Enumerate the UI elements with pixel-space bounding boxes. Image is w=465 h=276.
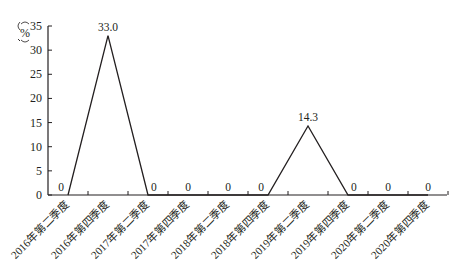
series-line <box>68 36 428 195</box>
y-tick-label: 15 <box>30 116 42 130</box>
y-axis-label: % <box>18 22 30 42</box>
data-series <box>68 36 428 195</box>
data-label: 14.3 <box>298 111 318 123</box>
data-labels: 033.0000014.3000 <box>58 21 431 193</box>
y-tick-label: 35 <box>30 19 42 33</box>
y-tick-label: 0 <box>36 188 42 202</box>
data-label: 0 <box>425 181 431 193</box>
data-label: 33.0 <box>98 21 118 33</box>
y-tick-label: 10 <box>30 140 42 154</box>
data-label: 0 <box>185 181 191 193</box>
y-unit-label: % <box>20 26 30 40</box>
data-label: 0 <box>225 181 231 193</box>
data-label: 0 <box>258 181 264 193</box>
data-label: 0 <box>151 181 157 193</box>
chart-canvas: 05101520253035 % 033.0000014.3000 2016年第… <box>0 0 465 276</box>
y-axis: 05101520253035 <box>30 19 52 202</box>
data-label: 0 <box>58 181 64 193</box>
line-chart: 05101520253035 % 033.0000014.3000 2016年第… <box>0 0 465 276</box>
paren-close <box>21 40 29 42</box>
paren-open <box>21 22 29 24</box>
y-tick-label: 20 <box>30 91 42 105</box>
y-tick-label: 5 <box>36 164 42 178</box>
data-label: 0 <box>385 181 391 193</box>
y-tick-label: 30 <box>30 43 42 57</box>
x-axis-tick-labels: 2016年第二季度2016年第四季度2017年第二季度2017年第四季度2018… <box>8 197 432 261</box>
y-tick-label: 25 <box>30 67 42 81</box>
data-label: 0 <box>351 181 357 193</box>
